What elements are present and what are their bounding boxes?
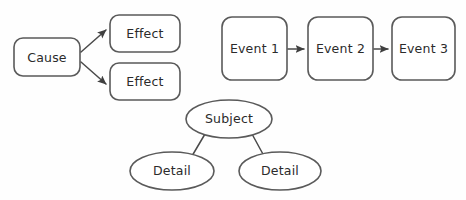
- web-cluster-organizer: Subject Detail Detail: [130, 100, 321, 190]
- node-effect-1[interactable]: Effect: [110, 15, 180, 52]
- subject-label: Subject: [205, 111, 253, 126]
- detail-left-label: Detail: [153, 163, 191, 178]
- event-3-label: Event 3: [399, 41, 448, 56]
- sequence-chain-organizer: Event 1 Event 2 Event 3: [222, 17, 455, 80]
- graphic-organizer-diagram: Cause Effect Effect Event 1 Event 2: [0, 0, 466, 200]
- node-event-3[interactable]: Event 3: [392, 17, 455, 80]
- cause-label: Cause: [27, 50, 67, 65]
- effect-1-label: Effect: [126, 26, 163, 41]
- diagram-canvas: Cause Effect Effect Event 1 Event 2: [0, 0, 466, 200]
- event-1-label: Event 1: [230, 41, 279, 56]
- event-2-label: Event 2: [316, 41, 365, 56]
- node-event-1[interactable]: Event 1: [222, 17, 287, 80]
- connector-subject-to-detail-right: [252, 134, 264, 156]
- connector-cause-to-effect-2-arrow: [81, 62, 106, 84]
- cause-effect-organizer: Cause Effect Effect: [14, 15, 180, 100]
- node-detail-left[interactable]: Detail: [130, 152, 214, 190]
- connector-cause-to-effect-1-arrow: [81, 30, 106, 52]
- node-effect-2[interactable]: Effect: [110, 63, 180, 100]
- detail-right-label: Detail: [261, 163, 299, 178]
- node-detail-right[interactable]: Detail: [239, 152, 321, 190]
- connector-subject-to-detail-left: [192, 134, 205, 156]
- effect-2-label: Effect: [126, 74, 163, 89]
- node-cause[interactable]: Cause: [14, 38, 80, 76]
- node-event-2[interactable]: Event 2: [308, 17, 373, 80]
- node-subject[interactable]: Subject: [186, 100, 272, 138]
